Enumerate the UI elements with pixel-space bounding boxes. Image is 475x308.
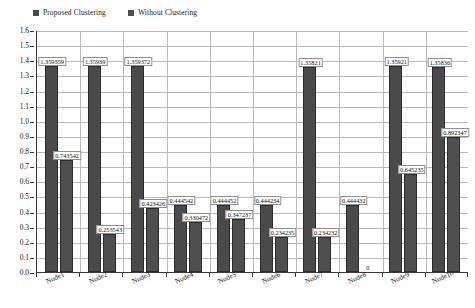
bar: 0.743542 [60, 160, 73, 272]
bar: 0.423426 [146, 208, 159, 272]
bar-group: 1.358360.892347 [425, 31, 468, 272]
x-axis-label-cell: Node6 [252, 274, 295, 308]
y-axis-tick [30, 107, 34, 108]
bar: 0.234232 [318, 237, 331, 272]
bar: 1.35821 [303, 67, 316, 272]
y-axis-tick [30, 213, 34, 214]
y-axis-tick-label: 1.6 [20, 27, 29, 35]
x-axis-label-cell: Node7 [295, 274, 338, 308]
bar-value-label: 0.330472 [183, 213, 211, 222]
bar: 0.645235 [404, 174, 417, 272]
bar-group: 1.3593590.743542 [37, 31, 80, 272]
y-axis-tick [30, 228, 34, 229]
x-axis-label-cell: Node10 [425, 274, 468, 308]
bar-group: 0.4444320 [339, 31, 382, 272]
y-axis-tick [30, 76, 34, 77]
bar-value-label: 0.234232 [312, 228, 340, 237]
bar: 0.330472 [189, 222, 202, 272]
bar-value-label: 0.645235 [398, 165, 426, 174]
y-axis-tick [30, 152, 34, 153]
bar-group: 0.4442340.234235 [252, 31, 295, 272]
bar-value-label: 1.35939 [83, 57, 107, 66]
y-axis-tick [30, 61, 34, 62]
legend-swatch-proposed-clustering [33, 10, 39, 16]
y-axis-tick-label: 1.3 [20, 72, 29, 80]
bar: 1.35836 [432, 67, 445, 272]
y-axis-tick [30, 31, 34, 32]
legend-item-proposed-clustering: Proposed Clustering [33, 9, 106, 17]
bar-value-label: 0.892347 [441, 128, 469, 137]
y-axis-tick [30, 92, 34, 93]
bar-chart: Proposed Clustering Without Clustering 1… [0, 0, 475, 308]
bar: 0.892347 [447, 137, 460, 272]
bar-value-label: 0.347237 [226, 210, 254, 219]
x-axis-label-cell: Node5 [209, 274, 252, 308]
x-axis-label-cell: Node2 [79, 274, 122, 308]
legend-label-without-clustering: Without Clustering [138, 9, 197, 17]
y-axis-tick [30, 243, 34, 244]
bar-value-label: 0.444542 [168, 196, 196, 205]
y-axis-tick-label: 1.4 [20, 57, 29, 65]
bar-value-label: 0 [366, 264, 369, 271]
y-axis-tick-label: 0.7 [20, 163, 29, 171]
bar: 0.253543 [103, 234, 116, 272]
y-axis-tick [30, 122, 34, 123]
plot-area: 1.3593590.7435421.359390.2535431.3593720… [36, 31, 468, 273]
bar: 1.35939 [88, 66, 101, 272]
x-axis-labels: Node1Node2Node3Node4Node5Node6Node7Node8… [36, 274, 468, 308]
bar-value-label: 0.444234 [254, 196, 282, 205]
bar: 0.444234 [260, 205, 273, 272]
bar-group: 0.4444520.347237 [209, 31, 252, 272]
legend-label-proposed-clustering: Proposed Clustering [43, 9, 106, 17]
bar-value-label: 0.253543 [96, 225, 124, 234]
bar-value-label: 1.359372 [125, 57, 153, 66]
x-axis-label-cell: Node9 [382, 274, 425, 308]
legend-item-without-clustering: Without Clustering [128, 9, 197, 17]
bar-value-label: 1.35836 [428, 58, 452, 67]
bar-value-label: 0.444452 [211, 196, 239, 205]
y-axis-tick [30, 258, 34, 259]
x-axis-label-cell: Node4 [166, 274, 209, 308]
bar-group: 1.358210.234232 [296, 31, 339, 272]
y-axis-tick-label: 0.8 [20, 148, 29, 156]
bar-value-label: 1.359359 [38, 57, 66, 66]
bar: 0.234235 [275, 237, 288, 272]
y-axis-tick-label: 0.2 [20, 239, 29, 247]
y-axis-tick-label: 0.6 [20, 178, 29, 186]
y-axis-tick-label: 1.2 [20, 88, 29, 96]
bar-group: 1.359390.253543 [80, 31, 123, 272]
y-axis: 1.61.51.41.31.21.11.00.90.80.70.60.50.40… [0, 31, 34, 273]
bar: 1.359359 [45, 66, 58, 272]
bar-value-label: 1.35921 [385, 57, 409, 66]
bar-group: 1.3593720.423426 [123, 31, 166, 272]
y-axis-tick [30, 137, 34, 138]
bar-value-label: 0.444432 [340, 196, 368, 205]
bar-value-label: 0.234235 [269, 228, 297, 237]
y-axis-tick [30, 197, 34, 198]
x-axis-label-cell: Node3 [122, 274, 165, 308]
legend-swatch-without-clustering [128, 10, 134, 16]
y-axis-tick-label: 0.1 [20, 254, 29, 262]
bar-value-label: 0.423426 [140, 199, 168, 208]
bar-value-label: 1.35821 [298, 58, 322, 67]
bar-value-label: 0.743542 [53, 151, 81, 160]
bar: 0.347237 [232, 219, 245, 272]
y-axis-tick [30, 273, 34, 274]
y-axis-tick-label: 0.0 [20, 269, 29, 277]
y-axis-tick-label: 0.9 [20, 133, 29, 141]
y-axis-tick-label: 1.5 [20, 42, 29, 50]
y-axis-tick-label: 1.0 [20, 118, 29, 126]
y-axis-tick [30, 46, 34, 47]
x-axis-label-cell: Node8 [338, 274, 381, 308]
y-axis-tick-label: 0.3 [20, 224, 29, 232]
chart-legend: Proposed Clustering Without Clustering [33, 9, 197, 17]
y-axis-tick [30, 167, 34, 168]
y-axis-tick [30, 182, 34, 183]
bar-group: 0.4445420.330472 [166, 31, 209, 272]
bar-groups: 1.3593590.7435421.359390.2535431.3593720… [37, 31, 468, 272]
bar: 1.359372 [131, 66, 144, 272]
y-axis-tick-label: 0.5 [20, 193, 29, 201]
y-axis-tick-label: 0.4 [20, 209, 29, 217]
x-axis-label-cell: Node1 [36, 274, 79, 308]
y-axis-tick-label: 1.1 [20, 103, 29, 111]
